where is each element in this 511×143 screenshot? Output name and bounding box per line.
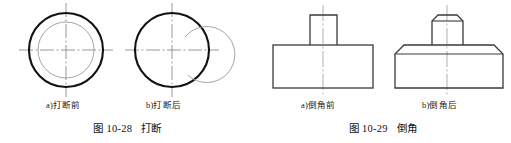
base-outline-b bbox=[395, 45, 503, 88]
caption-row-break: 图 10-28 打断 bbox=[0, 118, 255, 136]
circle-pair-before-break bbox=[19, 3, 113, 97]
drawing-break bbox=[0, 0, 255, 100]
circle-pair-after-break bbox=[125, 3, 235, 97]
sublabel-chamfer-a: a)倒角前 bbox=[301, 99, 336, 111]
figure-break: a)打断前 b)打断后 图 10-28 打断 bbox=[0, 0, 255, 143]
boss-outline-b bbox=[432, 15, 463, 45]
inner-arc-broken-b bbox=[185, 27, 235, 83]
sublabel-row-chamfer: a)倒角前 b)倒角后 bbox=[255, 99, 511, 116]
block-before-chamfer bbox=[273, 5, 373, 95]
sublabel-row-break: a)打断前 b)打断后 bbox=[0, 99, 255, 116]
sublabel-break-a: a)打断前 bbox=[46, 99, 81, 111]
figure-caption-break: 图 10-28 打断 bbox=[93, 122, 162, 136]
figure-page: a)打断前 b)打断后 图 10-28 打断 bbox=[0, 0, 511, 143]
figure-chamfer: a)倒角前 b)倒角后 图 10-29 倒角 bbox=[255, 0, 511, 143]
block-after-chamfer bbox=[395, 5, 503, 95]
drawing-chamfer bbox=[255, 0, 511, 100]
sublabel-chamfer-b: b)倒角后 bbox=[422, 99, 457, 111]
caption-row-chamfer: 图 10-29 倒角 bbox=[255, 118, 511, 136]
boss-outline-a bbox=[310, 15, 337, 45]
figure-caption-chamfer: 图 10-29 倒角 bbox=[349, 122, 418, 136]
sublabel-break-b: b)打断后 bbox=[146, 99, 181, 111]
